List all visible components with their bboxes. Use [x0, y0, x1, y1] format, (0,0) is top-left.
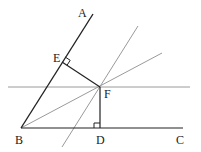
label-d: D: [96, 133, 105, 147]
label-c: C: [176, 133, 184, 147]
right-angle-mark-d: [94, 123, 100, 128]
angle-bisector-line: [21, 53, 162, 128]
label-e: E: [53, 51, 60, 65]
segment-ba: [21, 14, 93, 128]
label-f: F: [104, 87, 111, 101]
label-b: B: [15, 133, 23, 147]
geometry-diagram: A E F B D C: [0, 0, 201, 152]
segment-ef: [62, 62, 100, 87]
label-a: A: [78, 6, 87, 20]
